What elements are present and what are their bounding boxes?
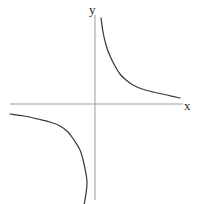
y-axis-label: y <box>89 3 96 16</box>
hyperbola-branch-quadrant-3 <box>10 114 87 204</box>
hyperbola-branch-quadrant-1 <box>101 18 180 98</box>
hyperbola-figure: y x <box>0 0 200 204</box>
plot-canvas <box>0 0 200 204</box>
x-axis-label: x <box>184 99 191 112</box>
